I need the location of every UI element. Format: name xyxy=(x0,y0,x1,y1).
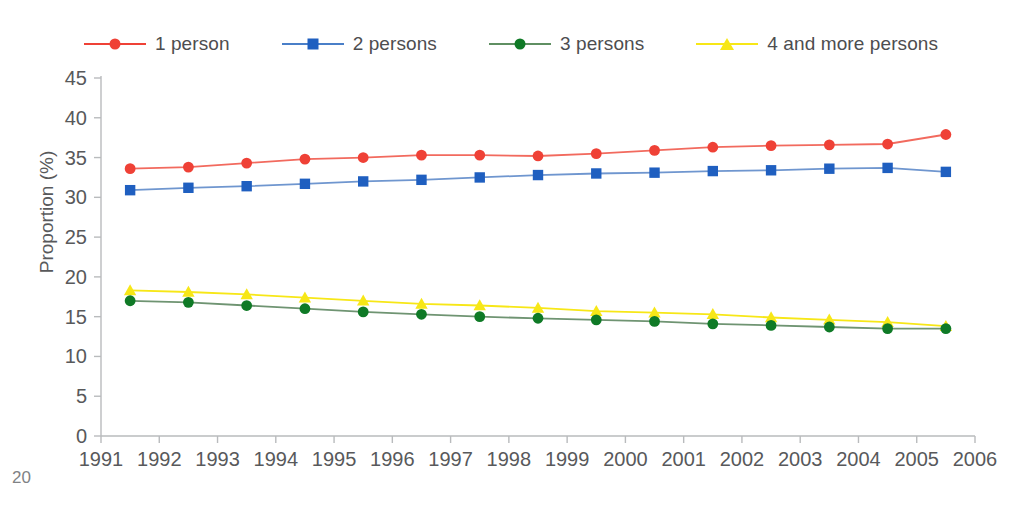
x-tick-label-1992: 1992 xyxy=(137,448,182,471)
x-tick-label-1994: 1994 xyxy=(254,448,299,471)
x-tick-label-1999: 1999 xyxy=(545,448,590,471)
y-tick-label-30: 30 xyxy=(53,186,87,209)
data-point-2-persons-1996.5 xyxy=(416,175,426,185)
data-point-1-person-1996.5 xyxy=(416,150,427,161)
x-tick-label-2005: 2005 xyxy=(894,448,939,471)
y-tick-label-0: 0 xyxy=(53,425,87,448)
x-tick-label-1995: 1995 xyxy=(312,448,357,471)
data-point-2-persons-1995.5 xyxy=(358,176,368,186)
data-point-3-persons-1996.5 xyxy=(416,309,427,320)
data-point-1-person-2003.5 xyxy=(824,139,835,150)
data-point-1-person-1994.5 xyxy=(300,154,311,165)
y-tick-label-15: 15 xyxy=(53,305,87,328)
data-point-3-persons-1997.5 xyxy=(474,311,485,322)
y-tick-label-25: 25 xyxy=(53,226,87,249)
data-point-2-persons-2001.5 xyxy=(708,166,718,176)
chart-canvas xyxy=(0,0,1022,513)
data-point-2-persons-1998.5 xyxy=(533,170,543,180)
x-tick-label-1998: 1998 xyxy=(487,448,532,471)
data-point-2-persons-1993.5 xyxy=(241,181,251,191)
chart-figure: 1 person 2 persons 3 persons 4 and more … xyxy=(0,0,1022,513)
y-tick-label-20: 20 xyxy=(53,265,87,288)
data-point-3-persons-1991.5 xyxy=(125,295,136,306)
data-point-3-persons-2003.5 xyxy=(824,322,835,333)
data-point-1-person-2004.5 xyxy=(882,139,893,150)
y-tick-label-10: 10 xyxy=(53,345,87,368)
data-point-3-persons-1994.5 xyxy=(300,303,311,314)
x-tick-label-2001: 2001 xyxy=(661,448,706,471)
data-point-1-person-2001.5 xyxy=(707,142,718,153)
data-point-1-person-2005.5 xyxy=(940,129,951,140)
data-point-2-persons-1994.5 xyxy=(300,179,310,189)
x-tick-label-1997: 1997 xyxy=(428,448,473,471)
data-point-2-persons-1992.5 xyxy=(183,183,193,193)
data-point-3-persons-2002.5 xyxy=(766,320,777,331)
data-point-2-persons-2004.5 xyxy=(882,163,892,173)
data-point-1-person-1998.5 xyxy=(533,151,544,162)
data-point-2-persons-2000.5 xyxy=(649,167,659,177)
x-tick-label-2000: 2000 xyxy=(603,448,648,471)
x-tick-label-1991: 1991 xyxy=(79,448,124,471)
x-tick-label-2004: 2004 xyxy=(836,448,881,471)
y-tick-label-35: 35 xyxy=(53,146,87,169)
data-point-1-person-2002.5 xyxy=(766,140,777,151)
data-point-2-persons-2002.5 xyxy=(766,165,776,175)
data-point-1-person-1991.5 xyxy=(125,163,136,174)
y-tick-label-5: 5 xyxy=(53,385,87,408)
data-point-1-person-1999.5 xyxy=(591,148,602,159)
data-point-1-person-1993.5 xyxy=(241,158,252,169)
axis-lines xyxy=(94,76,975,443)
data-point-1-person-2000.5 xyxy=(649,145,660,156)
data-point-3-persons-2001.5 xyxy=(707,318,718,329)
data-point-3-persons-1993.5 xyxy=(241,300,252,311)
data-point-3-persons-2005.5 xyxy=(940,323,951,334)
data-point-3-persons-1998.5 xyxy=(533,313,544,324)
data-point-1-person-1992.5 xyxy=(183,162,194,173)
data-point-3-persons-2000.5 xyxy=(649,316,660,327)
x-tick-label-2002: 2002 xyxy=(720,448,765,471)
data-point-2-persons-1991.5 xyxy=(125,185,135,195)
x-tick-label-1993: 1993 xyxy=(195,448,240,471)
data-point-3-persons-1992.5 xyxy=(183,297,194,308)
x-tick-label-1996: 1996 xyxy=(370,448,415,471)
data-point-3-persons-2004.5 xyxy=(882,323,893,334)
y-tick-label-45: 45 xyxy=(53,67,87,90)
series-3-persons xyxy=(125,295,952,334)
data-point-2-persons-2003.5 xyxy=(824,163,834,173)
y-tick-label-40: 40 xyxy=(53,106,87,129)
x-tick-label-2003: 2003 xyxy=(778,448,823,471)
data-point-2-persons-1997.5 xyxy=(475,172,485,182)
x-tick-label-2006: 2006 xyxy=(953,448,998,471)
page-number: 20 xyxy=(12,468,31,488)
data-point-3-persons-1995.5 xyxy=(358,306,369,317)
plot-area: Proportion (%) 051015202530354045 199119… xyxy=(0,0,1022,513)
data-point-2-persons-1999.5 xyxy=(591,168,601,178)
data-point-1-person-1995.5 xyxy=(358,152,369,163)
data-point-1-person-1997.5 xyxy=(474,150,485,161)
data-point-2-persons-2005.5 xyxy=(941,167,951,177)
data-point-3-persons-1999.5 xyxy=(591,314,602,325)
